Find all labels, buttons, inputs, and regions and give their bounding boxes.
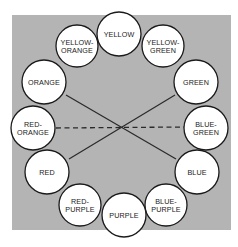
color-label: RED [39,168,54,177]
color-label: ORANGE [28,78,60,87]
color-label: PURPLE [65,205,94,214]
color-node-blue-purple: BLUE-PURPLE [145,184,187,226]
color-node-green: GREEN [174,60,218,104]
color-node-blue: BLUE [175,150,219,194]
color-label: BLUE [187,168,206,177]
color-label: PURPLE [151,205,180,214]
color-node-yellow-orange: YELLOW-ORANGE [56,25,98,67]
color-node-yellow-green: YELLOW-GREEN [142,25,184,67]
color-wheel-canvas: YELLOWYELLOW-GREENGREENBLUE-GREENBLUEBLU… [0,0,238,247]
color-label: ORANGE [17,128,49,137]
color-node-blue-green: BLUE-GREEN [184,106,228,150]
color-node-red: RED [25,150,69,194]
color-wheel-diagram: YELLOWYELLOW-GREENGREENBLUE-GREENBLUEBLU… [0,0,238,247]
color-label: GREEN [183,78,209,87]
color-node-red-purple: RED-PURPLE [59,184,101,226]
color-node-orange: ORANGE [22,60,66,104]
color-label: ORANGE [61,46,93,55]
color-node-yellow: YELLOW [97,12,141,56]
color-label: GREEN [193,128,219,137]
color-label: GREEN [150,46,176,55]
color-label: YELLOW [104,30,135,39]
color-node-purple: PURPLE [102,193,146,237]
color-node-red-orange: RED-ORANGE [11,106,55,150]
color-label: PURPLE [109,211,138,220]
